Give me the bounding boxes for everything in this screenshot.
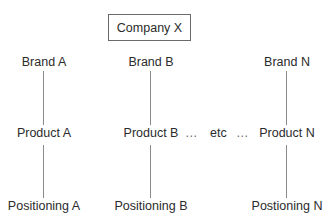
- product-b-label: Product B: [124, 126, 179, 140]
- brand-a-label: Brand A: [22, 55, 66, 69]
- brand-b-label: Brand B: [128, 55, 173, 69]
- product-a-to-positioning-a-connector: [43, 145, 44, 198]
- etc-label: etc: [210, 126, 227, 140]
- brand-n-to-product-n-connector: [286, 71, 287, 125]
- product-n-to-positioning-n-connector: [286, 145, 287, 198]
- company-root-box: Company X: [108, 14, 191, 41]
- brand-a-to-product-a-connector: [43, 71, 44, 125]
- positioning-n-label: Postioning N: [252, 199, 323, 213]
- positioning-b-label: Positioning B: [115, 199, 188, 213]
- ellipsis-left: …: [185, 126, 198, 140]
- ellipsis-right: …: [236, 126, 249, 140]
- product-a-label: Product A: [17, 126, 71, 140]
- product-n-label: Product N: [259, 126, 315, 140]
- company-root-label: Company X: [117, 21, 182, 35]
- brand-b-to-product-b-connector: [150, 71, 151, 125]
- brand-hierarchy-diagram: Company X Brand A Product A Positioning …: [0, 0, 333, 224]
- brand-n-label: Brand N: [264, 55, 310, 69]
- positioning-a-label: Positioning A: [8, 199, 80, 213]
- product-b-to-positioning-b-connector: [150, 145, 151, 198]
